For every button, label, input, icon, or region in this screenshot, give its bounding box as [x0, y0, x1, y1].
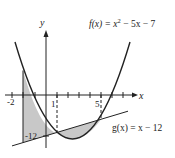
- x-axis-arrow-icon: [132, 93, 138, 98]
- x-tick-label-5: 5: [95, 99, 100, 109]
- y-axis-label: y: [39, 17, 45, 28]
- x-tick-label-minus-2: -2: [7, 97, 15, 107]
- f-label: f(x) = x2 − 5x − 7: [89, 17, 156, 30]
- g-label: g(x) = x − 12: [112, 123, 163, 134]
- y-axis-arrow-icon: [44, 30, 49, 37]
- x-axis-label: x: [138, 90, 144, 101]
- shaded-region-right: [57, 119, 101, 139]
- y-tick-label-minus-12: -12: [25, 131, 37, 141]
- x-tick-label-1: 1: [51, 99, 56, 109]
- function-graph: y x -2 1 5 -12 f(x) = x2 − 5x − 7 g(x) =…: [0, 0, 175, 158]
